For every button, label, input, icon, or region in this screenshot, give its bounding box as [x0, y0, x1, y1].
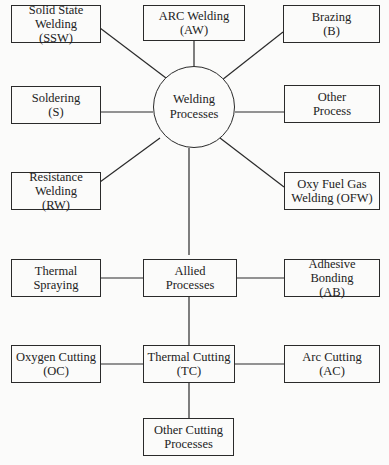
- node-label: Other: [318, 90, 346, 104]
- node-label: Thermal Cutting: [148, 350, 231, 364]
- node-label: (AC): [319, 364, 345, 378]
- node-label: Processes: [170, 107, 219, 122]
- node-label: Solid State: [29, 3, 84, 17]
- node-label: (AW): [180, 23, 208, 37]
- node-label: Adhesive: [308, 257, 355, 271]
- node-label: ARC Welding: [159, 9, 230, 23]
- node-soldering: Soldering (S): [11, 86, 101, 124]
- welding-processes-diagram: Solid State Welding (SSW) ARC Welding (A…: [0, 0, 389, 465]
- node-label: Bonding: [310, 271, 353, 285]
- node-label: Welding (OFW): [291, 191, 372, 205]
- node-label: Oxy Fuel Gas: [297, 177, 366, 191]
- node-resistance-welding: Resistance Welding (RW): [11, 172, 101, 210]
- node-label: Arc Cutting: [302, 350, 361, 364]
- node-arc-cutting: Arc Cutting (AC): [284, 345, 380, 383]
- node-label: Other Cutting: [154, 423, 223, 437]
- node-label: (RW): [42, 198, 70, 212]
- node-solid-state-welding: Solid State Welding (SSW): [11, 5, 101, 43]
- node-label: Thermal: [35, 264, 77, 278]
- node-label: (SSW): [39, 31, 73, 45]
- node-label: Allied: [174, 264, 205, 278]
- node-label: Welding: [35, 17, 77, 31]
- node-label: Process: [313, 104, 351, 118]
- node-label: Welding: [173, 92, 215, 107]
- node-other-process: Other Process: [284, 85, 380, 123]
- node-label: Resistance: [29, 170, 82, 184]
- node-welding-processes: Welding Processes: [153, 66, 235, 148]
- node-thermal-spraying: Thermal Spraying: [11, 259, 101, 297]
- node-label: Processes: [166, 278, 215, 292]
- node-label: (TC): [177, 364, 201, 378]
- node-label: Welding: [35, 184, 77, 198]
- node-label: Brazing: [312, 10, 352, 24]
- node-label: (S): [48, 105, 63, 119]
- node-label: Soldering: [32, 91, 81, 105]
- node-thermal-cutting: Thermal Cutting (TC): [143, 345, 235, 383]
- node-label: Spraying: [33, 278, 78, 292]
- node-label: (B): [323, 24, 340, 38]
- node-label: Oxygen Cutting: [16, 350, 96, 364]
- node-other-cutting-processes: Other Cutting Processes: [143, 418, 234, 456]
- node-oxygen-cutting: Oxygen Cutting (OC): [11, 345, 101, 383]
- node-allied-processes: Allied Processes: [143, 259, 237, 297]
- node-arc-welding: ARC Welding (AW): [143, 5, 245, 41]
- node-label: (OC): [43, 364, 69, 378]
- node-oxy-fuel-gas-welding: Oxy Fuel Gas Welding (OFW): [284, 172, 380, 210]
- node-label: Processes: [164, 437, 213, 451]
- node-adhesive-bonding: Adhesive Bonding (AB): [284, 259, 380, 297]
- node-label: (AB): [319, 285, 345, 299]
- node-brazing: Brazing (B): [283, 5, 380, 43]
